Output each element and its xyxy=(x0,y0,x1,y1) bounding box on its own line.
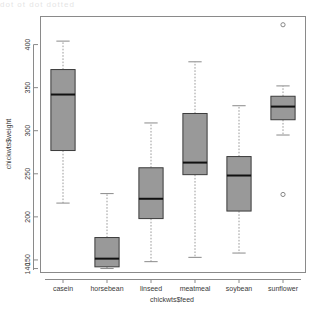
box-body xyxy=(139,168,163,219)
y-axis: 140150200250300350400 xyxy=(24,39,38,275)
box-body xyxy=(271,96,295,119)
box-soybean xyxy=(227,106,251,253)
box-body xyxy=(95,238,119,267)
x-tick-label-sunflower: sunflower xyxy=(268,285,299,292)
x-tick-label-soybean: soybean xyxy=(226,285,253,293)
boxes-layer xyxy=(51,23,295,269)
x-axis-title: chickwts$feed xyxy=(150,296,194,303)
box-horsebean xyxy=(95,194,119,269)
plot-frame xyxy=(41,17,306,273)
y-axis-title: chickwts$weight xyxy=(5,119,13,170)
box-casein xyxy=(51,41,75,203)
box-body xyxy=(183,113,207,174)
box-linseed xyxy=(139,123,163,262)
box-meatmeal xyxy=(183,62,207,258)
outlier-point xyxy=(281,23,285,27)
boxplot-figure: dot ot dot dotted 140150200250300350400 … xyxy=(0,0,316,315)
chart-canvas: 140150200250300350400 caseinhorsebeanlin… xyxy=(0,0,316,315)
x-tick-label-meatmeal: meatmeal xyxy=(180,285,211,292)
box-sunflower xyxy=(271,23,295,197)
y-tick-label: 200 xyxy=(24,211,31,223)
y-tick-label: 250 xyxy=(24,168,31,180)
y-tick-label: 400 xyxy=(24,39,31,51)
top-edge-artifact: dot ot dot dotted xyxy=(0,0,316,12)
y-tick-label: 350 xyxy=(24,82,31,94)
x-axis: caseinhorsebeanlinseedmeatmealsoybeansun… xyxy=(45,280,301,294)
y-tick-label: 150 xyxy=(24,254,31,266)
y-tick-label: 300 xyxy=(24,125,31,137)
x-tick-label-horsebean: horsebean xyxy=(90,285,123,292)
box-body xyxy=(51,70,75,151)
box-body xyxy=(227,157,251,211)
x-tick-label-casein: casein xyxy=(53,285,73,292)
outlier-point xyxy=(281,192,285,196)
x-tick-label-linseed: linseed xyxy=(140,285,162,292)
